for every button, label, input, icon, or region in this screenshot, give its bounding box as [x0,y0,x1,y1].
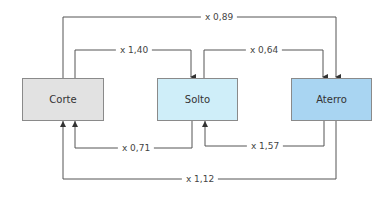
arrowhead-icon [72,121,78,127]
arrowhead-icon [60,121,66,127]
edge-corte-aterro [63,17,336,78]
edge-label-corte-aterro: x 0,89 [201,12,237,23]
node-solto-label: Solto [185,94,210,105]
edge-aterro-corte [63,120,336,179]
node-aterro: Aterro [291,78,372,121]
arrowhead-icon [202,121,208,127]
edge-label-solto-aterro: x 0,64 [246,45,282,56]
edge-label-aterro-corte: x 1,12 [182,174,218,185]
edge-label-aterro-solto: x 1,57 [247,141,283,152]
node-corte-label: Corte [49,94,76,105]
edge-label-solto-corte: x 0,71 [118,143,154,154]
node-aterro-label: Aterro [316,94,347,105]
node-corte: Corte [22,78,104,121]
edge-label-corte-solto: x 1,40 [116,45,152,56]
node-solto: Solto [157,78,238,121]
